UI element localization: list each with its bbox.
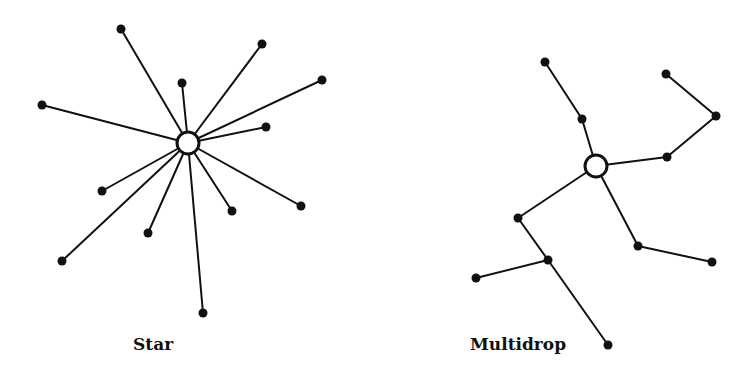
star-link [188,143,203,313]
star-terminal-node [58,257,67,266]
multidrop-label: Multidrop [470,336,566,353]
multidrop-terminal-node [712,112,721,121]
network-topology-figure: Star Multidrop [0,0,744,370]
multidrop-topology [472,58,721,350]
star-terminal-node [262,123,271,132]
multidrop-terminal-node [541,58,550,67]
multidrop-terminal-node [662,70,671,79]
star-terminal-node [38,101,47,110]
star-terminal-node [178,79,187,88]
multidrop-terminal-node [472,274,481,283]
star-terminal-node [98,187,107,196]
star-terminal-node [117,25,126,34]
multidrop-terminal-node [663,153,672,162]
star-terminal-node [144,229,153,238]
star-hub-node [177,132,199,154]
star-terminal-node [228,207,237,216]
multidrop-hub-node [585,155,607,177]
star-link [148,143,188,233]
star-link [188,44,262,143]
star-topology [38,25,327,318]
multidrop-link [596,166,638,246]
multidrop-link [545,62,582,119]
star-terminal-node [318,76,327,85]
star-link [42,105,188,143]
multidrop-terminal-node [708,258,717,267]
multidrop-link [518,166,596,218]
multidrop-link [638,246,712,262]
multidrop-terminal-node [604,341,613,350]
star-label: Star [133,336,173,353]
multidrop-link [667,116,716,157]
star-link [121,29,188,143]
star-link [62,143,188,261]
multidrop-terminal-node [514,214,523,223]
multidrop-link [666,74,716,116]
multidrop-link [476,260,548,278]
topology-diagram [0,0,744,370]
multidrop-terminal-node [634,242,643,251]
multidrop-terminal-node [544,256,553,265]
star-terminal-node [199,309,208,318]
multidrop-terminal-node [578,115,587,124]
multidrop-link [548,260,608,345]
multidrop-link [518,218,548,260]
star-link [188,143,301,206]
star-link [188,80,322,143]
star-terminal-node [258,40,267,49]
star-terminal-node [297,202,306,211]
